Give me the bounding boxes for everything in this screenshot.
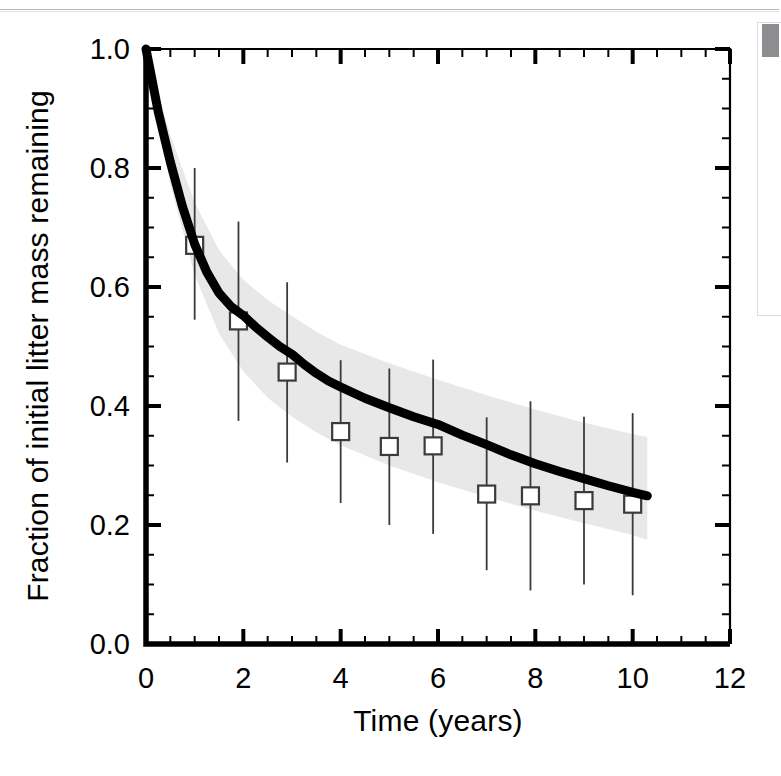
data-point-marker — [522, 487, 539, 504]
y-axis-tick-label: 1.0 — [90, 33, 130, 65]
y-axis-tick-label: 0.0 — [90, 628, 130, 660]
y-axis-tick-label: 0.4 — [90, 390, 130, 422]
y-axis-tick-label: 0.8 — [90, 152, 130, 184]
x-axis-tick-label: 0 — [138, 662, 154, 694]
x-axis-tick-label: 4 — [333, 662, 349, 694]
data-point-marker — [478, 486, 495, 503]
data-point-marker — [332, 423, 349, 440]
x-axis-tick-label: 12 — [714, 662, 746, 694]
data-point-marker — [381, 438, 398, 455]
x-axis-tick-label: 2 — [235, 662, 251, 694]
axis-tick-labels-group: 0246810120.00.20.40.60.81.0 — [90, 33, 746, 694]
x-axis-tick-label: 6 — [430, 662, 446, 694]
x-axis-tick-label: 10 — [617, 662, 649, 694]
y-axis-tick-label: 0.2 — [90, 509, 130, 541]
x-axis-tick-label: 8 — [527, 662, 543, 694]
y-axis-label: Fraction of initial litter mass remainin… — [21, 90, 54, 602]
data-point-marker — [576, 492, 593, 509]
data-point-marker — [279, 364, 296, 381]
data-point-marker — [425, 437, 442, 454]
x-axis-label: Time (years) — [353, 704, 523, 737]
y-axis-tick-label: 0.6 — [90, 271, 130, 303]
